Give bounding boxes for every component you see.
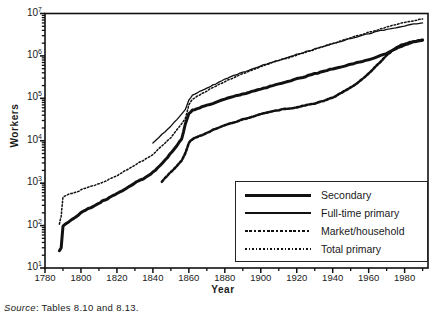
x-tick-label: 1980 bbox=[385, 272, 425, 283]
legend-item[interactable]: Full-time primary bbox=[236, 204, 427, 222]
x-tick-label: 1960 bbox=[349, 272, 389, 283]
x-tick-label: 1900 bbox=[241, 272, 281, 283]
source-text: : Tables 8.10 and 8.13. bbox=[36, 302, 139, 313]
x-tick-label: 1840 bbox=[133, 272, 173, 283]
legend-swatch-dotted-thick bbox=[245, 226, 311, 236]
legend-label: Total primary bbox=[311, 243, 381, 255]
legend-swatch-dotted-thin bbox=[245, 244, 311, 254]
x-tick-label: 1860 bbox=[169, 272, 209, 283]
figure-root: Workers 101102103104105106107 SecondaryF… bbox=[0, 0, 446, 320]
legend-swatch-thin-solid bbox=[245, 208, 311, 218]
source-note: Source: Tables 8.10 and 8.13. bbox=[4, 302, 139, 313]
chart-legend: SecondaryFull-time primaryMarket/househo… bbox=[235, 181, 428, 262]
source-label: Source bbox=[4, 302, 36, 313]
x-tick-label: 1800 bbox=[61, 272, 101, 283]
x-tick-label: 1780 bbox=[25, 272, 65, 283]
legend-item[interactable]: Market/household bbox=[236, 222, 427, 240]
x-tick-label: 1820 bbox=[97, 272, 137, 283]
legend-item[interactable]: Secondary bbox=[236, 186, 427, 204]
series-line bbox=[162, 40, 423, 182]
legend-label: Market/household bbox=[311, 225, 404, 237]
x-tick-label: 1920 bbox=[277, 272, 317, 283]
x-axis-title: Year bbox=[0, 284, 446, 295]
x-tick-label: 1880 bbox=[205, 272, 245, 283]
legend-label: Secondary bbox=[311, 189, 371, 201]
legend-item[interactable]: Total primary bbox=[236, 240, 427, 258]
legend-swatch-thick-solid bbox=[245, 190, 311, 200]
legend-label: Full-time primary bbox=[311, 207, 399, 219]
x-tick-label: 1940 bbox=[313, 272, 353, 283]
